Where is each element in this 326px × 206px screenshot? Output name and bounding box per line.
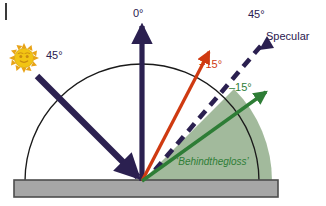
incident-beam-arrow [37, 76, 138, 177]
normal-angle-label: 0° [133, 8, 144, 19]
minus-15-angle-label: –15° [229, 82, 252, 93]
gloss-geometry-figure: 45° 0° +15° –15° 45° Specular ‘Behindthe… [0, 0, 326, 206]
incident-angle-label: 45° [46, 50, 63, 61]
specular-name-label: Specular [266, 31, 309, 42]
sun-icon [9, 43, 39, 73]
behind-the-gloss-label: ‘Behindthegloss’ [176, 157, 249, 167]
plus-15-angle-label: +15° [199, 59, 222, 70]
specular-angle-label: 45° [248, 9, 265, 20]
substrate-panel [14, 180, 278, 197]
